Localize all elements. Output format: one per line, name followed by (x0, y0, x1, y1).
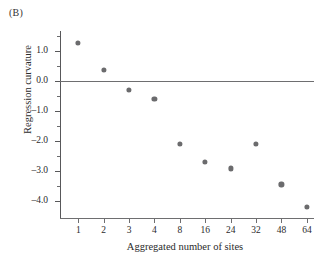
x-tick (129, 218, 130, 223)
data-point (152, 96, 157, 101)
x-tick-label: 32 (251, 226, 261, 236)
data-point (76, 40, 81, 45)
data-point (304, 204, 309, 209)
y-tick-label: –2.0 (31, 136, 48, 146)
y-tick-label: –3.0 (31, 166, 48, 176)
plot-area: 1.00.0–1.0–2.0–3.0–4.0 123481624324864 (60, 31, 314, 219)
x-tick-label: 3 (127, 226, 132, 236)
data-point (253, 141, 258, 146)
y-tick-minor (57, 126, 61, 127)
y-axis-line (60, 31, 61, 219)
y-tick-major: –3.0 (55, 171, 60, 172)
data-point (203, 159, 208, 164)
figure-panel-b: (B) Regression curvature Aggregated numb… (0, 0, 327, 263)
x-tick-label: 64 (302, 226, 312, 236)
y-tick-major: 1.0 (55, 51, 60, 52)
x-tick (78, 218, 79, 223)
x-axis-line (60, 218, 314, 219)
x-tick (307, 218, 308, 223)
y-tick-label: –1.0 (31, 106, 48, 116)
x-tick (281, 218, 282, 223)
y-tick-major: –4.0 (55, 201, 60, 202)
zero-reference-line (60, 81, 314, 82)
y-tick-minor (57, 36, 61, 37)
x-tick-label: 1 (76, 226, 81, 236)
x-tick (231, 218, 232, 223)
x-tick-label: 48 (277, 226, 287, 236)
y-tick-minor (57, 96, 61, 97)
y-tick-major: –1.0 (55, 111, 60, 112)
y-tick-label: –4.0 (31, 196, 48, 206)
data-point (228, 166, 233, 171)
x-tick-label: 2 (101, 226, 106, 236)
y-tick-label: 1.0 (36, 46, 48, 56)
y-tick-label: 0.0 (36, 76, 48, 86)
y-tick-minor (57, 186, 61, 187)
data-point (101, 68, 106, 73)
x-tick (256, 218, 257, 223)
data-point (279, 182, 284, 187)
x-tick-label: 8 (178, 226, 183, 236)
data-point (126, 88, 131, 93)
data-point (177, 141, 182, 146)
x-tick (104, 218, 105, 223)
x-axis-label: Aggregated number of sites (56, 241, 314, 252)
y-tick-major: –2.0 (55, 141, 60, 142)
x-tick (154, 218, 155, 223)
x-tick-label: 4 (152, 226, 157, 236)
x-tick-label: 24 (226, 226, 236, 236)
y-tick-major: 0.0 (55, 81, 60, 82)
x-tick (180, 218, 181, 223)
x-tick (205, 218, 206, 223)
y-tick-minor (57, 156, 61, 157)
y-tick-minor (57, 66, 61, 67)
x-tick-label: 16 (201, 226, 211, 236)
